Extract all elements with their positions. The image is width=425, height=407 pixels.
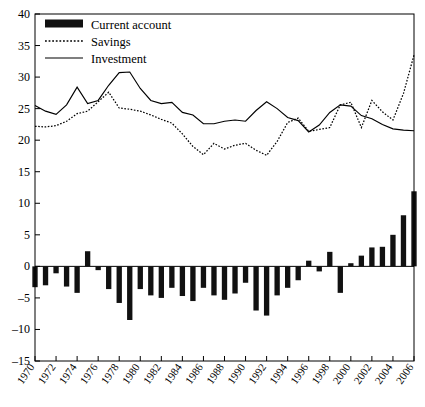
y-tick-label: 5: [24, 228, 30, 242]
legend-item-savings: Savings: [45, 35, 131, 49]
y-tick-label: 0: [24, 259, 30, 273]
bar-series-current-account: [32, 191, 416, 320]
x-tick-label: 1994: [267, 361, 290, 386]
x-tick-label: 1998: [309, 361, 332, 386]
bar-current-account: [43, 266, 48, 285]
y-tick-label: 30: [18, 70, 30, 84]
x-tick-label: 2004: [372, 361, 395, 386]
bar-current-account: [211, 266, 216, 295]
x-tick-label: 2000: [330, 361, 353, 386]
x-tick-label: 1982: [141, 361, 163, 386]
bar-current-account: [243, 266, 248, 282]
bar-current-account: [96, 266, 101, 270]
x-tick-label: 1990: [225, 361, 248, 386]
bar-current-account: [106, 266, 111, 289]
bar-current-account: [317, 266, 322, 271]
bar-current-account: [327, 252, 332, 267]
bar-current-account: [117, 266, 122, 303]
x-tick-label: 1980: [119, 361, 142, 386]
legend-label: Investment: [91, 52, 147, 66]
bar-current-account: [180, 266, 185, 296]
bar-current-account: [369, 247, 374, 266]
legend-swatch-bar: [45, 20, 83, 28]
legend-item-investment: Investment: [45, 52, 147, 66]
bar-current-account: [285, 266, 290, 287]
y-tick-label: 10: [18, 196, 30, 210]
bar-current-account: [64, 266, 69, 286]
legend-label: Current account: [91, 18, 172, 32]
bar-current-account: [201, 266, 206, 287]
bar-current-account: [253, 266, 258, 310]
bar-current-account: [74, 266, 79, 292]
plot-frame: [35, 14, 414, 361]
y-tick-label: 20: [18, 133, 30, 147]
y-tick-label: 15: [18, 165, 30, 179]
bar-current-account: [232, 266, 237, 293]
bar-current-account: [274, 266, 279, 295]
x-tick-label: 1986: [183, 361, 206, 386]
bar-current-account: [148, 266, 153, 295]
x-tick-label: 1992: [246, 361, 268, 386]
bar-current-account: [222, 266, 227, 299]
x-tick-label: 1976: [77, 361, 100, 386]
line-investment: [35, 72, 414, 132]
bar-current-account: [390, 235, 395, 267]
legend-label: Savings: [91, 35, 131, 49]
bar-current-account: [169, 266, 174, 287]
savings-investment-current-account-chart: –15–10–50510152025303540 197019721974197…: [0, 0, 425, 407]
x-tick-label: 1972: [35, 361, 57, 386]
bar-current-account: [138, 266, 143, 289]
y-tick-label: –10: [11, 322, 30, 336]
x-tick-label: 1974: [56, 361, 79, 386]
plot-border: [35, 14, 414, 361]
bar-current-account: [53, 266, 58, 273]
bar-current-account: [264, 266, 269, 315]
chart-legend: Current accountSavingsInvestment: [45, 18, 172, 66]
y-axis: –15–10–50510152025303540: [11, 7, 414, 368]
bar-current-account: [127, 266, 132, 320]
line-series-group: [35, 55, 414, 155]
bar-current-account: [306, 261, 311, 267]
x-tick-label: 1988: [204, 361, 227, 386]
bar-current-account: [401, 215, 406, 266]
y-tick-label: 40: [18, 7, 30, 21]
bar-current-account: [85, 251, 90, 266]
chart-container: –15–10–50510152025303540 197019721974197…: [0, 0, 425, 407]
x-tick-label: 2006: [393, 361, 416, 386]
x-tick-label: 1978: [98, 361, 121, 386]
bar-current-account: [348, 263, 353, 266]
bar-current-account: [296, 266, 301, 280]
x-tick-label: 1984: [162, 361, 185, 386]
bar-current-account: [359, 256, 364, 267]
y-tick-label: 25: [18, 102, 30, 116]
bar-current-account: [380, 247, 385, 267]
bar-current-account: [190, 266, 195, 301]
line-savings: [35, 55, 414, 155]
bar-current-account: [159, 266, 164, 298]
y-tick-label: –5: [17, 291, 30, 305]
legend-item-current-account: Current account: [45, 18, 172, 32]
bar-current-account: [338, 266, 343, 292]
y-tick-label: 35: [18, 39, 30, 53]
x-tick-label: 1996: [288, 361, 311, 386]
x-tick-label: 2002: [351, 361, 373, 386]
